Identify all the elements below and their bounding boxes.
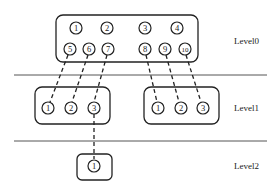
svg-text:3: 3	[92, 103, 96, 113]
svg-text:7: 7	[106, 44, 110, 54]
level1-label: Level1	[234, 103, 259, 113]
svg-text:9: 9	[163, 44, 167, 54]
level0-node-7: 7	[102, 43, 114, 55]
level0-node-5: 5	[64, 43, 76, 55]
svg-text:1: 1	[74, 23, 78, 33]
level0-node-10: 10	[179, 43, 191, 55]
level1-left-node-3: 3	[88, 102, 100, 114]
level0-node-4: 4	[171, 22, 183, 34]
svg-text:2: 2	[179, 103, 183, 113]
level2-label: Level2	[234, 161, 259, 171]
level0-node-6: 6	[83, 43, 95, 55]
level0-label: Level0	[234, 36, 259, 46]
svg-text:8: 8	[143, 44, 147, 54]
level1-right-node-3: 3	[197, 102, 209, 114]
level2-node-1: 1	[88, 160, 100, 172]
level0-node-2: 2	[101, 22, 113, 34]
level0-node-1: 1	[70, 22, 82, 34]
svg-text:1: 1	[156, 103, 160, 113]
level-tree-diagram: 1 2 3 4 5 6 7 8 9 10 1 2 3 1 2 3 1 Level…	[0, 0, 279, 190]
level1-left-node-1: 1	[42, 102, 54, 114]
svg-text:2: 2	[69, 103, 73, 113]
level1-right-node-2: 2	[175, 102, 187, 114]
level0-node-9: 9	[159, 43, 171, 55]
svg-text:3: 3	[143, 23, 147, 33]
level0-node-3: 3	[139, 22, 151, 34]
svg-text:1: 1	[46, 103, 50, 113]
level1-right-node-1: 1	[152, 102, 164, 114]
svg-text:2: 2	[105, 23, 109, 33]
svg-text:10: 10	[182, 46, 190, 54]
level0-node-8: 8	[139, 43, 151, 55]
level1-left-node-2: 2	[65, 102, 77, 114]
svg-text:3: 3	[201, 103, 205, 113]
svg-text:1: 1	[92, 161, 96, 171]
svg-text:5: 5	[68, 44, 72, 54]
svg-text:6: 6	[87, 44, 91, 54]
